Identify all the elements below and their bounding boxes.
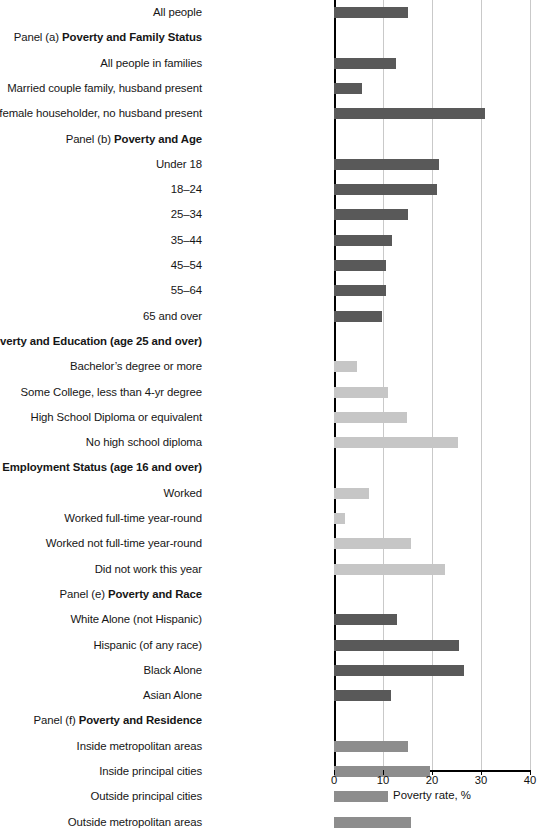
bar <box>334 108 485 119</box>
bar <box>334 741 408 752</box>
chart-row: Did not work this year <box>0 557 543 582</box>
bar <box>334 184 437 195</box>
chart-row: High School Diploma or equivalent <box>0 405 543 430</box>
panel-header-row: Panel (a) Poverty and Family Status <box>0 25 543 50</box>
category-label: Families with female householder, no hus… <box>0 101 209 126</box>
x-tick-label-40: 40 <box>524 774 536 786</box>
chart-row: Worked <box>0 481 543 506</box>
category-label: Bachelor’s degree or more <box>70 354 209 379</box>
chart-row: Families with female householder, no hus… <box>0 101 543 126</box>
chart-row: All people <box>0 0 543 25</box>
x-tick-label-10: 10 <box>377 774 389 786</box>
bar <box>334 412 407 423</box>
category-label: 25–34 <box>171 202 209 227</box>
category-label: All people <box>153 0 209 25</box>
category-label: 55–64 <box>171 278 209 303</box>
chart-row: Worked not full-time year-round <box>0 531 543 556</box>
chart-row: Inside metropolitan areas <box>0 734 543 759</box>
chart-row: 55–64 <box>0 278 543 303</box>
bar <box>334 564 445 575</box>
panel-title: Poverty and Employment Status (age 16 an… <box>0 461 202 473</box>
bar <box>334 235 392 246</box>
panel-number: Panel (b) <box>66 133 114 145</box>
panel-title: Poverty and Family Status <box>62 31 202 43</box>
chart-row: 45–54 <box>0 253 543 278</box>
bar <box>334 209 408 220</box>
bar <box>334 58 396 69</box>
panel-header-label: Panel (a) Poverty and Family Status <box>14 25 209 50</box>
figure-footnote <box>6 806 536 815</box>
panel-header-row: Panel (f) Poverty and Residence <box>0 708 543 733</box>
bar <box>334 83 362 94</box>
chart-row: Worked full-time year-round <box>0 506 543 531</box>
panel-header-label: Panel (c) Poverty and Education (age 25 … <box>0 329 209 354</box>
chart-row: Hispanic (of any race) <box>0 633 543 658</box>
x-tick-label-0: 0 <box>331 774 337 786</box>
category-label: Worked <box>164 481 209 506</box>
category-label: Married couple family, husband present <box>7 76 209 101</box>
panel-header-row: Panel (d) Poverty and Employment Status … <box>0 455 543 480</box>
bar <box>334 488 369 499</box>
x-axis-title: Poverty rate, % <box>334 789 530 801</box>
chart-row: 65 and over <box>0 304 543 329</box>
bar <box>334 640 459 651</box>
category-label: 18–24 <box>171 177 209 202</box>
chart-row: 18–24 <box>0 177 543 202</box>
bar <box>334 7 408 18</box>
panel-header-label: Panel (d) Poverty and Employment Status … <box>0 455 209 480</box>
panel-title: Poverty and Race <box>108 588 202 600</box>
x-tick-label-20: 20 <box>426 774 438 786</box>
category-label: Black Alone <box>144 658 209 683</box>
category-label: 65 and over <box>143 304 209 329</box>
panel-number: Panel (e) <box>60 588 108 600</box>
category-label: All people in families <box>100 51 209 76</box>
category-label: 35–44 <box>171 228 209 253</box>
bar <box>334 538 411 549</box>
chart-row: Under 18 <box>0 152 543 177</box>
bar <box>334 665 464 676</box>
bar <box>334 513 345 524</box>
bar <box>334 361 357 372</box>
panel-title: Poverty and Education (age 25 and over) <box>0 335 202 347</box>
panel-header-label: Panel (e) Poverty and Race <box>60 582 209 607</box>
category-label: Hispanic (of any race) <box>93 633 209 658</box>
bar <box>334 437 458 448</box>
panel-title: Poverty and Age <box>114 133 202 145</box>
bar <box>334 159 439 170</box>
bar <box>334 285 386 296</box>
chart-row: 35–44 <box>0 228 543 253</box>
chart-row: Black Alone <box>0 658 543 683</box>
bar <box>334 817 411 828</box>
panel-header-row: Panel (b) Poverty and Age <box>0 127 543 152</box>
category-label: 45–54 <box>171 253 209 278</box>
category-label: Worked not full-time year-round <box>46 531 209 556</box>
panel-number: Panel (a) <box>14 31 62 43</box>
category-label: No high school diploma <box>86 430 209 455</box>
chart-row: Asian Alone <box>0 683 543 708</box>
bar <box>334 260 386 271</box>
chart-row: Bachelor’s degree or more <box>0 354 543 379</box>
chart-row: No high school diploma <box>0 430 543 455</box>
category-label: Asian Alone <box>143 683 209 708</box>
category-label: Worked full-time year-round <box>64 506 209 531</box>
chart-row: Inside principal cities <box>0 759 543 784</box>
category-label: Some College, less than 4-yr degree <box>21 380 209 405</box>
panel-header-label: Panel (f) Poverty and Residence <box>34 708 209 733</box>
chart-row: Married couple family, husband present <box>0 76 543 101</box>
panel-number: Panel (f) <box>34 714 79 726</box>
category-label: White Alone (not Hispanic) <box>70 607 209 632</box>
panel-header-label: Panel (b) Poverty and Age <box>66 127 209 152</box>
panel-header-row: Panel (c) Poverty and Education (age 25 … <box>0 329 543 354</box>
chart-row: White Alone (not Hispanic) <box>0 607 543 632</box>
category-label: Inside metropolitan areas <box>77 734 209 759</box>
panel-header-row: Panel (e) Poverty and Race <box>0 582 543 607</box>
chart-row: 25–34 <box>0 202 543 227</box>
category-label: Inside principal cities <box>99 759 209 784</box>
bar <box>334 614 397 625</box>
bar <box>334 690 391 701</box>
category-label: Under 18 <box>156 152 209 177</box>
bar <box>334 387 388 398</box>
panel-title: Poverty and Residence <box>79 714 202 726</box>
chart-row: All people in families <box>0 51 543 76</box>
